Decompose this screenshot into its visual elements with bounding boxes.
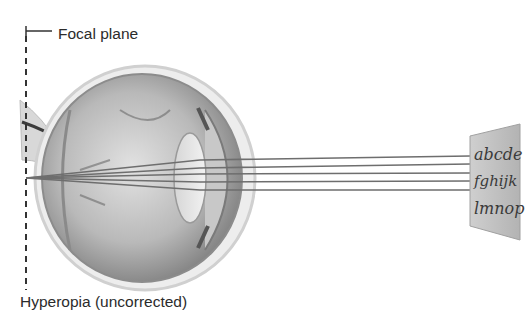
chart-line-3: lmnop [474, 199, 524, 218]
eye-illustration: abcde fghijk lmnop [0, 0, 530, 332]
lens [174, 133, 206, 223]
condition-label: Hyperopia (uncorrected) [20, 293, 187, 311]
hyperopia-diagram: abcde fghijk lmnop Focal plane Hyperopia… [0, 0, 530, 332]
focal-plane-label: Focal plane [58, 25, 138, 43]
eye-chart: abcde fghijk lmnop [470, 124, 524, 240]
chart-line-2: fghijk [473, 172, 517, 190]
chart-line-1: abcde [474, 145, 522, 164]
